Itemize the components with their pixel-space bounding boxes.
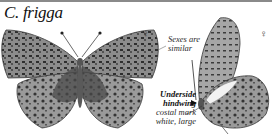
female-symbol-upperside: ♀ (142, 28, 150, 39)
underside-note: Underside hindwing costal mark white, la… (150, 90, 196, 126)
female-symbol-underside: ♀ (260, 28, 268, 39)
butterfly-illustrations (0, 0, 272, 134)
sexes-pointer (158, 46, 166, 50)
sexes-note: Sexes are similar (168, 35, 200, 53)
underside-butterfly (192, 18, 269, 134)
upperside-butterfly (2, 30, 159, 128)
underside-line2: white, large (150, 117, 196, 126)
sexes-note-line2: similar (168, 44, 200, 53)
